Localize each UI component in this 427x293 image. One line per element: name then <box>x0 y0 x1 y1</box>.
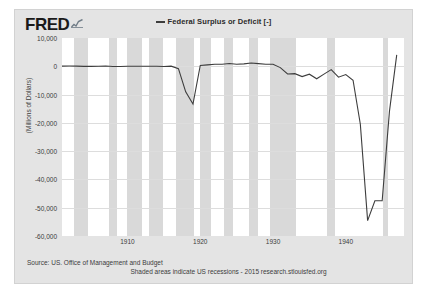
chart-header: FRED Federal Surplus or Deficit [-] <box>15 10 412 38</box>
y-axis-title: (Millions of Dollars) <box>25 51 32 161</box>
x-axis-tick-label: 1920 <box>193 238 207 245</box>
y-axis-tick-label: 0 <box>53 63 57 70</box>
y-axis-tick-label: -50,000 <box>35 204 57 211</box>
series-legend: Federal Surplus or Deficit [-] <box>15 17 412 26</box>
y-axis-tick-label: -20,000 <box>35 119 57 126</box>
x-axis-tick-label: 1940 <box>339 238 353 245</box>
x-axis-tick-label: 1910 <box>120 238 134 245</box>
chart-footer: Source: US. Office of Management and Bud… <box>15 259 412 275</box>
y-axis-tick-label: -10,000 <box>35 91 57 98</box>
legend-series-label: Federal Surplus or Deficit [-] <box>168 17 272 26</box>
plot-area <box>62 38 404 236</box>
source-text: Source: US. Office of Management and Bud… <box>27 259 412 266</box>
series-line <box>62 38 404 236</box>
recession-note-text: Shaded areas indicate US recessions - 20… <box>15 268 412 275</box>
y-axis-tick-label: -30,000 <box>35 148 57 155</box>
y-axis-tick-label: -60,000 <box>35 233 57 240</box>
y-axis: 10,0000-10,000-20,000-30,000-40,000-50,0… <box>15 38 60 236</box>
series-polyline <box>62 55 397 221</box>
y-axis-tick-label: 10,000 <box>37 35 57 42</box>
x-axis: 1910192019301940 <box>62 238 404 250</box>
fred-chart-card: FRED Federal Surplus or Deficit [-] 10,0… <box>14 9 413 284</box>
x-axis-tick-label: 1930 <box>266 238 280 245</box>
legend-line-swatch <box>156 21 165 23</box>
y-axis-tick-label: -40,000 <box>35 176 57 183</box>
